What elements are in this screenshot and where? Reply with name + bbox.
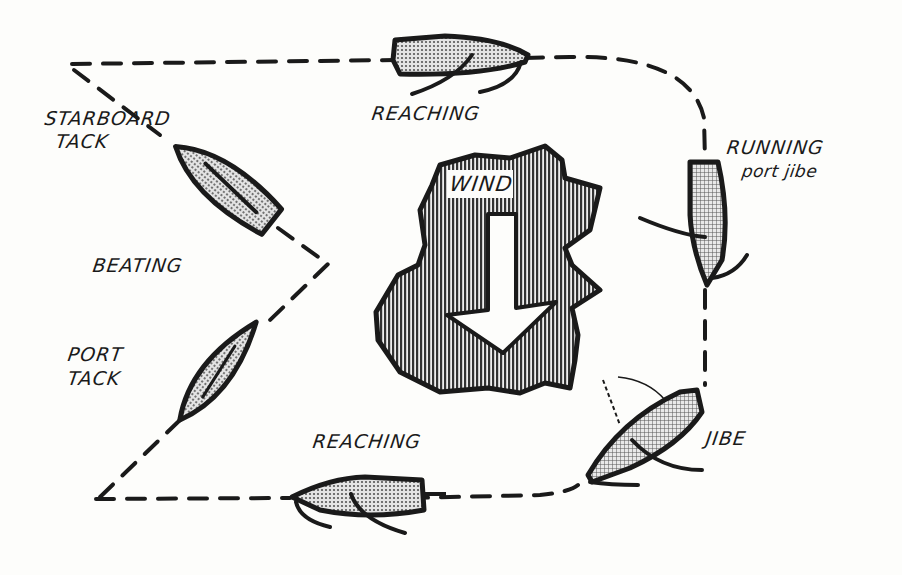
beating-label: BEATING [92, 255, 185, 275]
starboard-tack-label-line2: TACK [55, 131, 110, 151]
running-label-line2: port jibe [741, 161, 819, 181]
running-label-line1: RUNNING [726, 137, 826, 157]
running-boat [640, 162, 747, 285]
wind-label: WIND [449, 174, 515, 194]
port-tack-boat [169, 314, 267, 429]
starboard-tack-label-line1: STARBOARD [44, 108, 173, 128]
reaching-top-label: REACHING [371, 103, 482, 123]
sailing-diagram [0, 0, 902, 575]
reaching-bottom-boat [292, 477, 446, 533]
jibe-label: JIBE [705, 428, 748, 448]
jibe-boat [588, 377, 702, 485]
reaching-top-boat [393, 36, 528, 94]
port-tack-label-line2: TACK [67, 368, 122, 388]
reaching-bottom-label: REACHING [312, 431, 423, 451]
starboard-tack-boat [163, 130, 284, 237]
port-tack-label-line1: PORT [67, 344, 125, 364]
